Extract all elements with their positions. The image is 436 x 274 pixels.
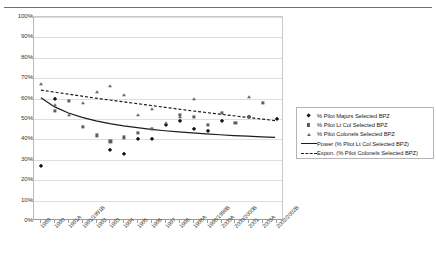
- data-point-marker: [53, 96, 58, 101]
- data-point-marker: [220, 111, 223, 114]
- legend-entry[interactable]: Power (% Pilot Lt Col Selected BPZ): [300, 139, 431, 148]
- data-point-marker: [136, 137, 141, 142]
- data-point-marker: [39, 164, 44, 169]
- data-point-marker: [248, 115, 251, 118]
- y-axis-tick-mark: [29, 179, 32, 180]
- legend-entry-label: Power (% Pilot Lt Col Selected BPZ): [317, 141, 409, 147]
- y-axis-tick-mark: [29, 138, 32, 139]
- data-point-marker: [108, 85, 112, 88]
- y-axis-tick-mark: [29, 77, 32, 78]
- data-point-marker: [81, 101, 85, 104]
- data-point-marker: [164, 121, 168, 124]
- data-point-marker: [262, 101, 265, 104]
- y-axis-tick-mark: [29, 118, 32, 119]
- data-point-marker: [67, 99, 70, 102]
- data-point-marker: [39, 83, 43, 86]
- legend-entry-label: % Pilot Majors Selected BPZ: [317, 113, 390, 119]
- legend-entry-label: % Pilot Colonels Selected BPZ: [317, 131, 395, 137]
- y-axis: 0%10%20%30%40%50%60%70%80%90%100%: [0, 16, 33, 220]
- chart-figure: 0%10%20%30%40%50%60%70%80%90%100% 198919…: [0, 0, 436, 274]
- data-point-marker: [53, 109, 56, 112]
- legend-entry[interactable]: % Pilot Majors Selected BPZ: [300, 111, 431, 120]
- y-axis-tick-mark: [29, 16, 32, 17]
- data-point-marker: [192, 115, 195, 118]
- data-point-marker: [81, 126, 84, 129]
- plot-area: [33, 16, 283, 220]
- legend-entry[interactable]: Expon. (% Pilot Colonels Selected BPZ): [300, 149, 431, 158]
- data-point-marker: [150, 128, 153, 131]
- top-divider-rule: [4, 7, 432, 8]
- y-axis-tick-mark: [29, 98, 32, 99]
- y-axis-tick-mark: [29, 159, 32, 160]
- square-icon: [307, 123, 310, 126]
- legend-entry-label: Expon. (% Pilot Colonels Selected BPZ): [317, 150, 418, 156]
- y-axis-tick-mark: [29, 36, 32, 37]
- data-point-marker: [136, 113, 140, 116]
- x-axis: 198919901991A1991/1991B19921993199419951…: [33, 220, 283, 274]
- data-point-marker: [205, 129, 210, 134]
- data-point-marker: [192, 97, 196, 100]
- data-point-marker: [206, 124, 209, 127]
- y-axis-tick-mark: [29, 220, 32, 221]
- data-point-marker: [122, 151, 127, 156]
- chart-legend: % Pilot Majors Selected BPZ% Pilot Lt Co…: [296, 107, 434, 159]
- data-point-marker: [247, 95, 251, 98]
- legend-key-icon: [300, 149, 317, 158]
- legend-key-icon: [300, 130, 317, 139]
- legend-entry-label: % Pilot Lt Col Selected BPZ: [317, 122, 388, 128]
- y-axis-tick-mark: [29, 200, 32, 201]
- data-points-layer: [34, 17, 282, 219]
- legend-entry[interactable]: % Pilot Lt Col Selected BPZ: [300, 120, 431, 129]
- data-point-marker: [219, 119, 224, 124]
- data-point-marker: [95, 91, 99, 94]
- data-point-marker: [150, 107, 154, 110]
- legend-key-icon: [300, 120, 317, 129]
- data-point-marker: [178, 115, 182, 118]
- dashed-line-icon: [301, 153, 317, 154]
- data-point-marker: [109, 140, 112, 143]
- data-point-marker: [123, 136, 126, 139]
- triangle-icon: [307, 133, 311, 136]
- data-point-marker: [275, 117, 280, 122]
- data-point-marker: [137, 132, 140, 135]
- diamond-icon: [306, 113, 311, 118]
- data-point-marker: [234, 121, 237, 124]
- data-point-marker: [67, 113, 71, 116]
- legend-key-icon: [300, 139, 317, 148]
- solid-line-icon: [301, 143, 317, 144]
- data-point-marker: [108, 147, 113, 152]
- data-point-marker: [122, 93, 126, 96]
- data-point-marker: [191, 127, 196, 132]
- data-point-marker: [178, 119, 183, 124]
- data-point-marker: [150, 137, 155, 142]
- data-point-marker: [95, 134, 98, 137]
- legend-key-icon: [300, 111, 317, 120]
- data-point-marker: [53, 103, 57, 106]
- y-axis-tick-mark: [29, 57, 32, 58]
- legend-entry[interactable]: % Pilot Colonels Selected BPZ: [300, 130, 431, 139]
